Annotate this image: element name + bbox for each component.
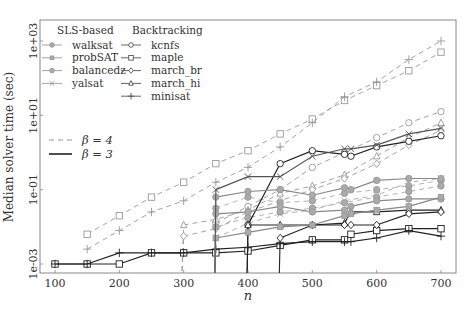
y-tick-label: 1e-01 [27, 174, 40, 205]
chart-container: 1002003004005006007001e-031e-011e+011e+0… [0, 0, 474, 311]
y-tick-label: 1e+03 [27, 23, 40, 60]
svg-text:maple: maple [151, 51, 184, 63]
svg-text:kcnfs: kcnfs [151, 39, 179, 51]
x-axis-label: n [244, 288, 252, 303]
x-tick-label: 300 [173, 277, 194, 290]
line-chart: 1002003004005006007001e-031e-011e+011e+0… [0, 0, 474, 311]
y-axis-label: Median solver time (sec) [2, 72, 16, 223]
y-tick-label: 1e+01 [27, 97, 40, 134]
svg-text:β = 4: β = 4 [81, 133, 113, 147]
legend-group-title: SLS-based [57, 24, 114, 36]
svg-text:balancedz: balancedz [72, 64, 126, 76]
svg-text:walksat: walksat [72, 39, 114, 51]
x-tick-label: 200 [109, 277, 130, 290]
svg-text:yalsat: yalsat [71, 77, 104, 89]
x-tick-label: 700 [431, 277, 452, 290]
svg-text:march_br: march_br [151, 64, 203, 77]
x-tick-label: 500 [302, 277, 323, 290]
legend-group-title: Backtracking [132, 24, 203, 36]
x-tick-label: 600 [366, 277, 387, 290]
svg-text:probSAT: probSAT [72, 51, 118, 63]
svg-text:march_hi: march_hi [151, 77, 201, 90]
y-tick-label: 1e-03 [27, 248, 40, 279]
x-tick-label: 100 [45, 277, 66, 290]
svg-text:β = 3: β = 3 [81, 147, 113, 161]
svg-text:minisat: minisat [151, 90, 191, 102]
